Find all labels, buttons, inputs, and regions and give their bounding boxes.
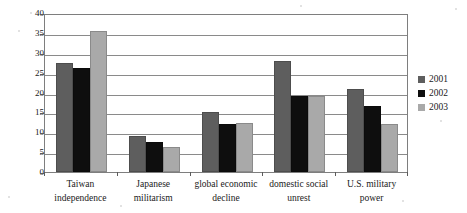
bar	[219, 124, 236, 172]
x-category-label-line: power	[329, 191, 414, 205]
scan-speckle	[440, 120, 442, 122]
bar-group	[129, 15, 180, 172]
scan-speckle	[455, 8, 457, 10]
scan-speckle	[18, 30, 20, 32]
y-tick-label: 40	[4, 9, 44, 18]
plot-area	[44, 14, 408, 173]
scan-speckle	[402, 200, 404, 202]
bar	[308, 96, 325, 172]
bar-group	[202, 15, 253, 172]
bar	[291, 96, 308, 172]
x-tick-mark	[407, 172, 408, 176]
bar	[381, 124, 398, 172]
bar	[236, 123, 253, 172]
bar	[73, 68, 90, 172]
x-category-label-line: U.S. military	[329, 177, 414, 191]
bar-chart: percentage 0510152025303540 Taiwanindepe…	[0, 0, 467, 213]
bar	[56, 63, 73, 172]
bar	[364, 106, 381, 172]
x-tick-mark	[335, 172, 336, 176]
scan-speckle	[30, 12, 32, 14]
y-tick-label: 0	[4, 168, 44, 177]
bar-group	[274, 15, 325, 172]
legend-item[interactable]: 2002	[418, 86, 466, 100]
bar	[274, 61, 291, 172]
bar	[90, 31, 107, 172]
y-tick-label: 20	[4, 89, 44, 98]
x-tick-mark	[190, 172, 191, 176]
scan-speckle	[120, 205, 122, 207]
y-tick-label: 35	[4, 29, 44, 38]
bar	[129, 136, 146, 172]
chart-legend: 200120022003	[418, 72, 466, 114]
scan-speckle	[8, 196, 10, 198]
scan-speckle	[300, 5, 302, 7]
x-tick-mark	[117, 172, 118, 176]
bar	[146, 142, 163, 172]
bar	[347, 89, 364, 172]
bar-group	[56, 15, 107, 172]
y-tick-label: 30	[4, 49, 44, 58]
x-tick-mark	[44, 172, 45, 176]
x-tick-mark	[262, 172, 263, 176]
legend-label: 2003	[429, 102, 448, 112]
legend-item[interactable]: 2003	[418, 100, 466, 114]
legend-item[interactable]: 2001	[418, 72, 466, 86]
legend-label: 2001	[429, 74, 448, 84]
y-tick-label: 5	[4, 148, 44, 157]
bar-group	[347, 15, 398, 172]
legend-swatch-icon	[418, 104, 425, 111]
legend-swatch-icon	[418, 90, 425, 97]
y-axis-tick-labels: 0510152025303540	[0, 14, 44, 173]
x-axis-category-labels: TaiwanindependenceJapanesemilitarismglob…	[44, 177, 408, 213]
y-tick-label: 25	[4, 69, 44, 78]
bar	[202, 112, 219, 172]
y-tick-label: 15	[4, 108, 44, 117]
bar	[163, 147, 180, 172]
legend-label: 2002	[429, 88, 448, 98]
legend-swatch-icon	[418, 76, 425, 83]
y-tick-label: 10	[4, 128, 44, 137]
